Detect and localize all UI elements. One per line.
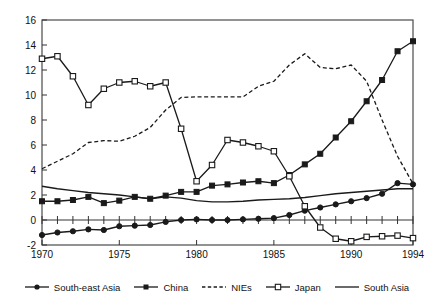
line-chart-svg: -20246810121416197019751980198519901994 [0, 0, 433, 270]
legend-item-south-east-asia[interactable]: South-east Asia [24, 282, 121, 293]
data-point [380, 78, 385, 83]
data-point [271, 181, 276, 186]
legend-item-label: NIEs [231, 282, 252, 293]
data-point [302, 162, 307, 167]
y-axis-tick-label: 0 [30, 215, 36, 226]
x-axis-tick-label: 1980 [185, 249, 208, 260]
data-point [132, 79, 137, 84]
data-point [70, 229, 75, 234]
data-point [148, 84, 153, 89]
data-point [364, 196, 369, 201]
legend-key-filled-circle-solid [24, 282, 50, 292]
x-axis-tick-label: 1994 [402, 249, 425, 260]
data-point [179, 189, 184, 194]
data-point [240, 217, 245, 222]
legend-item-label: South Asia [364, 282, 409, 293]
y-axis-tick-label: 12 [25, 65, 37, 76]
y-axis-tick-label: 8 [30, 115, 36, 126]
data-point [209, 217, 214, 222]
data-point [86, 227, 91, 232]
series-line-south-east-asia [42, 183, 413, 235]
chart-container: -20246810121416197019751980198519901994 … [0, 0, 433, 307]
data-point [40, 199, 45, 204]
data-point [39, 56, 44, 61]
y-axis-tick-label: 6 [30, 140, 36, 151]
data-point [194, 189, 199, 194]
data-point [101, 227, 106, 232]
data-point [395, 181, 400, 186]
data-point [379, 191, 384, 196]
data-point [271, 216, 276, 221]
data-point [117, 224, 122, 229]
y-axis-tick-label: 4 [30, 165, 36, 176]
data-point [333, 236, 338, 241]
plot-area: -20246810121416197019751980198519901994 [0, 0, 433, 270]
data-point [210, 183, 215, 188]
data-point [318, 151, 323, 156]
data-point [194, 179, 199, 184]
data-point [333, 135, 338, 140]
x-axis-tick-label: 1970 [31, 249, 54, 260]
data-point [55, 199, 60, 204]
data-point [117, 80, 122, 85]
data-point [256, 216, 261, 221]
data-point [163, 80, 168, 85]
legend-item-nies[interactable]: NIEs [201, 282, 252, 293]
data-point [395, 233, 400, 238]
legend-item-japan[interactable]: Japan [265, 282, 321, 293]
data-point [101, 201, 106, 206]
data-point [86, 194, 91, 199]
legend-item-label: China [163, 282, 188, 293]
data-point [240, 180, 245, 185]
data-point [148, 222, 153, 227]
data-point [70, 198, 75, 203]
series-line-china [42, 41, 413, 203]
data-point [333, 202, 338, 207]
data-point [132, 223, 137, 228]
x-axis-tick-label: 1975 [108, 249, 131, 260]
plot-frame [42, 20, 413, 245]
data-point [163, 219, 168, 224]
data-point [240, 140, 245, 145]
data-point [178, 126, 183, 131]
data-point [302, 204, 307, 209]
data-point [209, 162, 214, 167]
data-point [348, 239, 353, 244]
legend-item-south-asia[interactable]: South Asia [334, 282, 409, 293]
data-point [194, 217, 199, 222]
legend-key-plain-solid [334, 282, 360, 292]
data-point [101, 86, 106, 91]
data-point [179, 217, 184, 222]
data-point [256, 144, 261, 149]
legend-item-label: Japan [295, 282, 321, 293]
legend-key-open-square-solid [265, 282, 291, 292]
data-point [287, 174, 292, 179]
data-point [256, 179, 261, 184]
data-point [271, 149, 276, 154]
data-point [364, 234, 369, 239]
y-axis-tick-label: 2 [30, 190, 36, 201]
data-point [117, 198, 122, 203]
legend-key-dashed [201, 282, 227, 292]
data-point [349, 119, 354, 124]
data-point [379, 234, 384, 239]
data-point [225, 137, 230, 142]
chart-legend: South-east AsiaChinaNIEsJapanSouth Asia [0, 274, 433, 300]
data-point [55, 230, 60, 235]
data-point [349, 199, 354, 204]
legend-key-filled-square-solid [133, 282, 159, 292]
data-point [55, 54, 60, 59]
data-point [364, 99, 369, 104]
data-point [318, 225, 323, 230]
legend-item-china[interactable]: China [133, 282, 188, 293]
x-axis-tick-label: 1985 [263, 249, 286, 260]
data-point [395, 49, 400, 54]
y-axis-tick-label: 16 [25, 15, 37, 26]
data-point [225, 217, 230, 222]
y-axis-tick-label: 10 [25, 90, 37, 101]
data-point [287, 212, 292, 217]
data-point [70, 74, 75, 79]
legend-item-label: South-east Asia [54, 282, 121, 293]
data-point [410, 235, 415, 240]
data-point [410, 182, 415, 187]
